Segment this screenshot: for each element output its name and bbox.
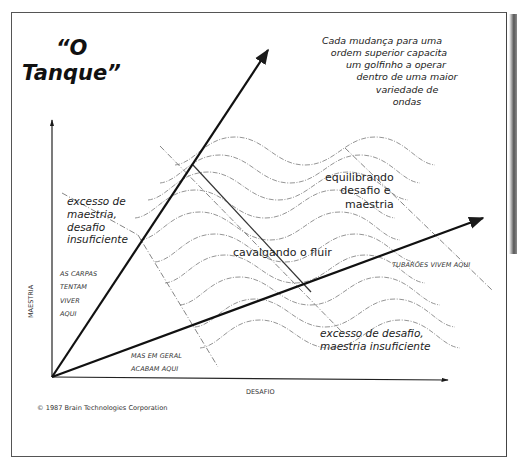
title-line-2: Tanque” — [22, 61, 121, 86]
balance-label: equilibrando desafio e maestria — [325, 171, 394, 211]
carps-line: AS CARPAS — [60, 268, 97, 281]
carps-label: AS CARPAS TENTAM VIVER AQUI — [60, 268, 97, 321]
balance-line: desafio e — [337, 184, 394, 197]
title-line-1: “O — [56, 36, 87, 61]
note-line: um golfinho a operar — [330, 59, 462, 71]
carps-line: TENTAM — [60, 281, 97, 294]
end-up-line: MAS EM GERAL — [131, 350, 182, 363]
flow-label: cavalgando o fluir — [233, 246, 332, 259]
carps-line: AQUI — [60, 308, 97, 321]
challenge-line: excesso de desafio, — [320, 327, 431, 340]
note-line: Cada mudança para uma — [302, 35, 462, 47]
y-axis-label: MAESTRIA — [28, 285, 35, 318]
x-axis — [52, 377, 448, 380]
too-much-mastery-label: excesso de maestria, desafio insuficient… — [67, 195, 128, 246]
sharks-label: TUBARÕES VIVEM AQUI — [392, 262, 470, 269]
note-line: ordem superior capacita — [316, 47, 462, 59]
note-line: dentro de uma maior — [352, 71, 462, 83]
mastery-line: maestria, — [67, 208, 128, 221]
note-line: ondas — [352, 96, 462, 108]
x-axis-label: DESAFIO — [246, 389, 275, 396]
balance-line: maestria — [345, 198, 394, 211]
balance-line: equilibrando — [325, 171, 394, 184]
mastery-line: insuficiente — [67, 233, 128, 246]
copyright-credit: © 1987 Brain Technologies Corporation — [37, 405, 167, 412]
challenge-line: maestria insuficiente — [320, 340, 431, 353]
too-much-challenge-label: excesso de desafio, maestria insuficient… — [320, 327, 431, 353]
mastery-line: excesso de — [67, 195, 128, 208]
mastery-line: desafio — [67, 221, 128, 234]
wave-family — [135, 137, 460, 348]
flow-diagonal — [193, 165, 311, 292]
end-up-line: ACABAM AQUI — [131, 363, 182, 376]
carps-line: VIVER — [60, 295, 97, 308]
end-up-label: MAS EM GERAL ACABAM AQUI — [131, 350, 182, 377]
note-line: variedade de — [352, 84, 462, 96]
dolphin-note: Cada mudança para uma ordem superior cap… — [312, 35, 462, 108]
